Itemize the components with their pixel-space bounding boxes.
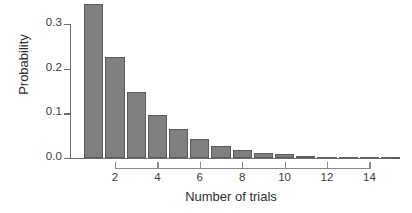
y-axis-line (70, 24, 71, 158)
x-axis-tick (200, 162, 201, 169)
y-axis-tick (64, 24, 70, 25)
y-axis-tick-label: 0.0 (22, 150, 62, 162)
plot-area: 0.00.10.20.3 2468101214 Probability Numb… (0, 0, 412, 213)
y-axis-tick (64, 158, 70, 159)
bar (127, 92, 146, 158)
bar (84, 4, 103, 158)
y-axis-tick (64, 113, 70, 114)
probability-bar-chart: 0.00.10.20.3 2468101214 Probability Numb… (0, 0, 412, 213)
x-axis-tick-label: 12 (307, 171, 347, 183)
x-axis-tick-label: 6 (180, 171, 220, 183)
x-axis-tick-label: 10 (265, 171, 305, 183)
x-axis-tick (327, 162, 328, 169)
x-axis-tick (157, 162, 158, 169)
x-axis-tick-label: 2 (95, 171, 135, 183)
x-axis-tick-label: 14 (349, 171, 389, 183)
bar (169, 129, 188, 158)
x-axis-tick-label: 4 (137, 171, 177, 183)
y-axis-title: Probability (16, 0, 31, 130)
bar (190, 139, 209, 158)
bar (148, 115, 167, 158)
x-axis-title: Number of trials (70, 189, 392, 204)
x-axis-tick-label: 8 (222, 171, 262, 183)
x-axis-tick (115, 162, 116, 169)
x-axis-tick (369, 162, 370, 169)
x-axis-line (70, 158, 392, 159)
bar (211, 146, 230, 158)
y-axis-tick (64, 69, 70, 70)
x-axis-tick (285, 162, 286, 169)
bar (105, 57, 124, 158)
x-axis-tick (242, 162, 243, 169)
